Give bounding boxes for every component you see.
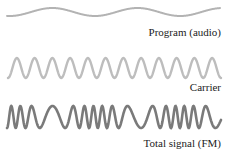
program-wave-path [7,8,220,16]
fm-total-signal-path [7,106,221,128]
carrier-label: Carrier [190,82,221,93]
carrier-wave-path [8,58,221,78]
program-audio-wave [0,0,227,153]
total-signal-fm-label: Total signal (FM) [144,138,221,149]
program-audio-label: Program (audio) [149,27,221,38]
